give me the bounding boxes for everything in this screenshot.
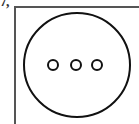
outer-circle [24,13,130,117]
inner-circle-2 [71,60,81,70]
inner-circle-3 [92,60,102,70]
inner-circles-group [48,60,102,70]
inner-circle-1 [48,60,58,70]
circle-diagram [0,0,139,124]
